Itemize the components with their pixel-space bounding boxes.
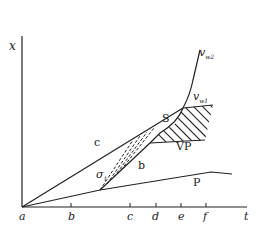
diagram-canvas: [0, 0, 261, 241]
tick-label-e: e: [178, 211, 185, 222]
vw2-subscript: w2: [205, 53, 214, 60]
curve-label-b: b: [138, 160, 145, 171]
tick-label-d: d: [152, 211, 159, 222]
curve-label-p: P: [193, 177, 200, 188]
vw1-subscript: w1: [199, 97, 208, 104]
curve-vw1: [183, 105, 213, 108]
sigma-subscript: 1: [104, 175, 108, 182]
curve-label-c: c: [94, 137, 100, 148]
curve-p: [22, 172, 232, 207]
sigma-dashed-lines: [100, 128, 154, 190]
curve-label-vw2: vw2: [199, 47, 214, 60]
curve-label-s: S: [162, 113, 170, 124]
tick-label-c: c: [127, 211, 133, 222]
x-axis-label: t: [244, 211, 248, 222]
origin-label: a: [19, 211, 26, 222]
tick-label-f: f: [203, 211, 207, 222]
sigma-symbol: σ: [96, 168, 104, 181]
tick-label-b: b: [68, 211, 75, 222]
curve-label-sigma1: σ1: [96, 169, 107, 182]
y-axis-label: x: [9, 40, 16, 52]
curve-c: [22, 108, 183, 207]
curve-label-vw1: vw1: [193, 91, 208, 104]
curve-label-vp: VP: [176, 141, 191, 152]
